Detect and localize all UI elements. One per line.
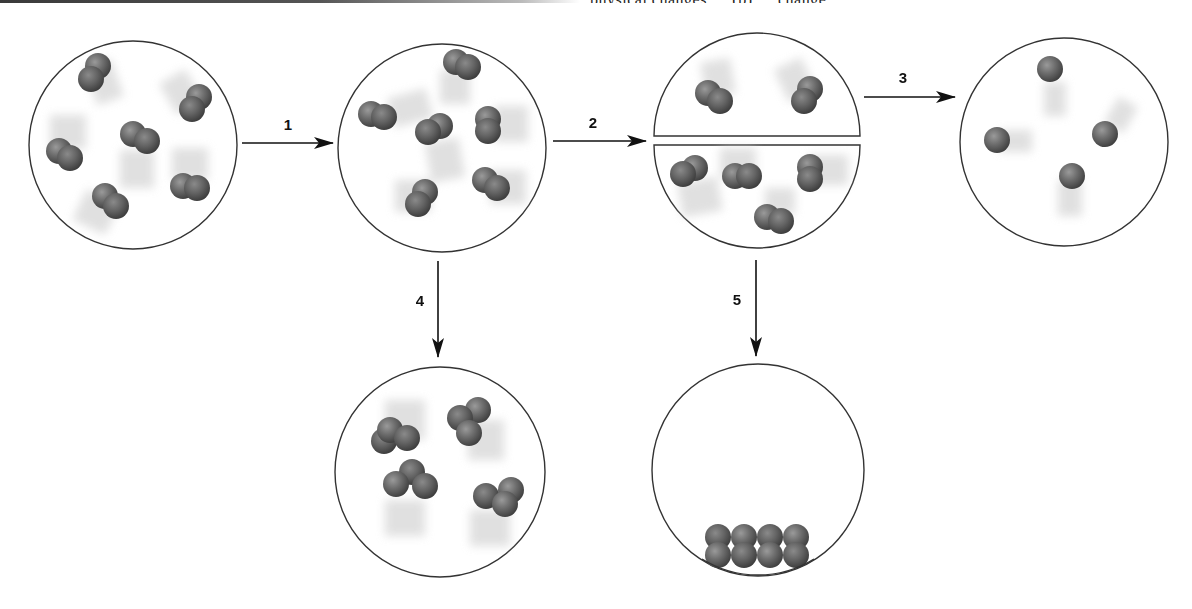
step-label-2: 2: [589, 114, 597, 131]
molecule-diatomic: [797, 154, 823, 192]
diagram-svg: [0, 0, 1192, 609]
step-label-1: 1: [284, 116, 292, 133]
container-sample-after-2: [654, 33, 860, 248]
atom-single: [984, 127, 1010, 153]
molecule-diatomic-condensed: [783, 524, 809, 568]
molecule-diatomic-condensed: [731, 524, 757, 568]
step-label-5: 5: [733, 291, 741, 308]
molecule-diatomic-condensed: [705, 524, 731, 568]
atom-single: [1037, 56, 1063, 82]
container-sample-after-3: [960, 38, 1168, 246]
step-label-3: 3: [899, 69, 907, 86]
atom-single: [1059, 163, 1085, 189]
diagram-figure: physical changes … (b) … change: [0, 0, 1192, 609]
molecule-diatomic: [475, 106, 501, 144]
molecule-diatomic: [722, 163, 762, 189]
molecule-diatomic: [170, 173, 210, 201]
atom-single: [1092, 121, 1118, 147]
step-label-4: 4: [416, 292, 424, 309]
container-sample-after-1: [338, 44, 546, 252]
container-top-half: [654, 33, 860, 136]
container-sample-after-4: [335, 367, 545, 577]
container-sample-initial: [29, 41, 237, 249]
molecule-diatomic-condensed: [757, 524, 783, 568]
container-sample-after-5: [652, 364, 864, 576]
